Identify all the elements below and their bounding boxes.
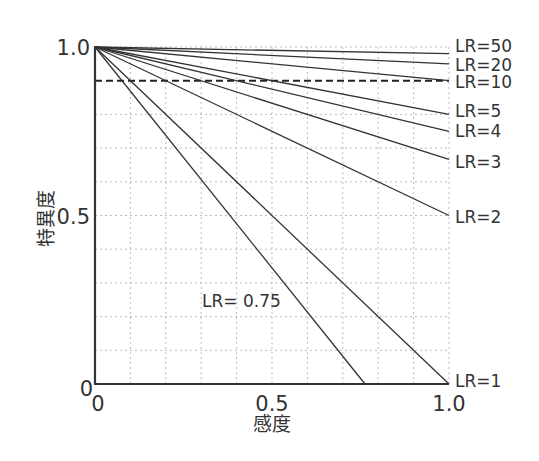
label-lr075: LR= 0.75 xyxy=(202,291,281,311)
label-lr10: LR=10 xyxy=(455,72,512,92)
x-axis-label: 感度 xyxy=(253,413,291,435)
y-tick-mid: 0.5 xyxy=(57,205,90,229)
line-lr20 xyxy=(95,47,449,64)
label-lr4: LR=4 xyxy=(455,121,501,141)
y-axis-label: 特異度 xyxy=(35,190,57,247)
label-lr1: LR=1 xyxy=(455,371,501,391)
x-tick-0: 0 xyxy=(91,392,104,416)
y-tick-max: 1.0 xyxy=(57,36,90,60)
label-lr3: LR=3 xyxy=(455,152,501,172)
x-tick-max: 1.0 xyxy=(432,392,465,416)
label-lr50: LR=50 xyxy=(455,36,512,56)
chart: 1.0 0.5 0 0 0.5 1.0 感度 特異度 LR=50 LR=20 L… xyxy=(0,0,539,461)
label-lr5: LR=5 xyxy=(455,101,501,121)
label-lr2: LR=2 xyxy=(455,207,501,227)
